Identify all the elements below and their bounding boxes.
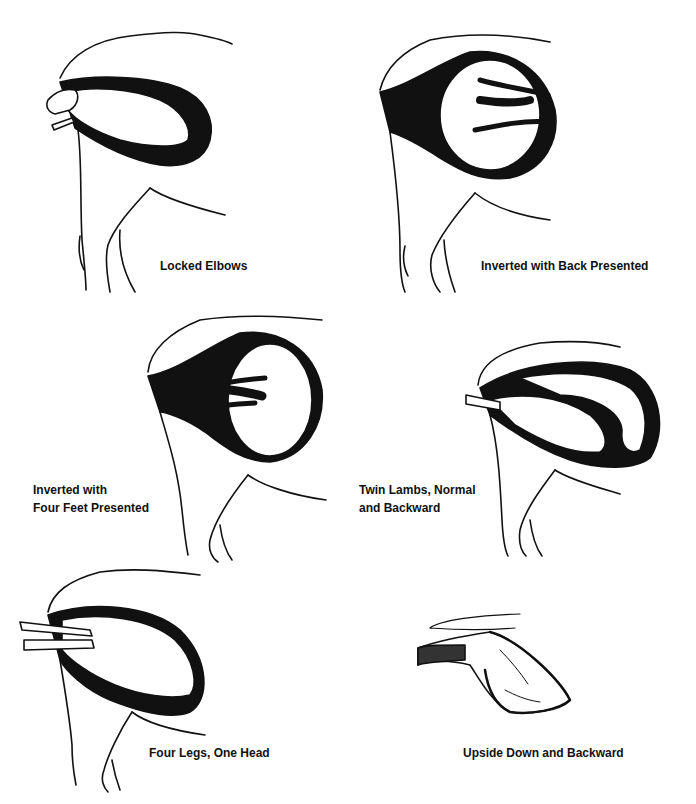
- label-line: Locked Elbows: [160, 259, 247, 273]
- upside-down-backward-drawing: [418, 614, 570, 713]
- lambing-malpresentations-figure: Locked Elbows Inverted with Back Present…: [0, 0, 696, 804]
- label-line: Twin Lambs, Normal: [359, 481, 475, 499]
- panel-label-locked-elbows: Locked Elbows: [160, 257, 247, 275]
- panel-label-four-legs-one-head: Four Legs, One Head: [149, 744, 270, 762]
- twin-lambs-drawing: [466, 342, 660, 556]
- inverted-four-feet-drawing: [148, 316, 326, 562]
- label-line: Inverted with: [33, 481, 149, 499]
- label-line: Inverted with Back Presented: [481, 259, 648, 273]
- panel-label-twin-lambs: Twin Lambs, Normal and Backward: [359, 481, 475, 517]
- panel-label-inverted-back: Inverted with Back Presented: [481, 257, 648, 275]
- label-line: Upside Down and Backward: [463, 746, 624, 760]
- panel-label-inverted-four-feet: Inverted with Four Feet Presented: [33, 481, 149, 517]
- locked-elbows-drawing: [47, 32, 232, 292]
- illustrations: [0, 0, 696, 804]
- label-line: Four Feet Presented: [33, 499, 149, 517]
- inverted-back-drawing: [380, 35, 556, 292]
- label-line: Four Legs, One Head: [149, 746, 270, 760]
- panel-label-upside-down-backward: Upside Down and Backward: [463, 744, 624, 762]
- label-line: and Backward: [359, 499, 475, 517]
